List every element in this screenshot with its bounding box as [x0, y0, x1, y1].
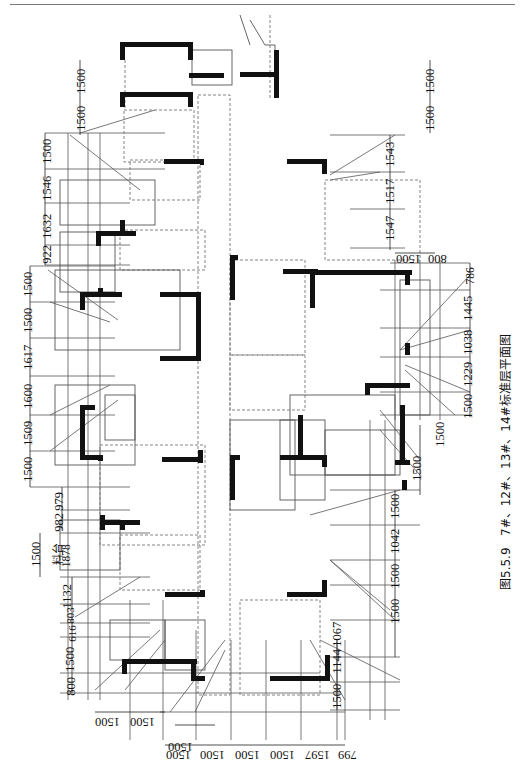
dim-bottom-1: 1500 [200, 748, 225, 761]
dim-left-16: 803 [65, 607, 76, 624]
dim-right-step-0: 800 [428, 252, 447, 265]
dim-left-3: 1546 [41, 176, 54, 201]
dim-bottom-5: 799 [338, 748, 357, 761]
dim-right-upper-0: 1543 [384, 142, 397, 167]
floor-plan-page: 1500 1500 1500 1546 1632 922 1500 1500 1… [0, 0, 520, 765]
dim-left-extra: 1500 [30, 542, 43, 567]
dim-right-bottom-2: 1500 [331, 684, 344, 709]
dashed-partitions [100, 15, 420, 695]
dim-left-12: 979 [53, 492, 66, 511]
dim-left-2: 1500 [41, 139, 54, 164]
dim-left-10: 1509 [22, 421, 35, 446]
dim-right-top-1: 1500 [424, 106, 437, 131]
dim-right-lower-a-0: 1500 [434, 422, 447, 447]
dim-left-9: 1600 [22, 384, 35, 409]
dim-left-4: 1632 [41, 214, 54, 239]
dim-left-7: 1500 [22, 308, 35, 333]
dimension-lines [30, 60, 470, 745]
dim-left-17: 616 [67, 625, 78, 642]
dim-bottom-2: 1500 [235, 748, 260, 761]
room-outlines [55, 15, 430, 670]
dim-left-1: 1500 [75, 106, 88, 131]
dim-right-mid-0: 786 [465, 267, 477, 284]
figure-title: 7#、12#、13#、14#标准层平面图 [499, 334, 513, 536]
dim-left-19: 800 [65, 677, 78, 696]
dim-right-upper-2: 1547 [384, 216, 397, 241]
dim-right-lower-b-2: 1500 [389, 564, 402, 589]
dim-right-lower-b-0: 1500 [389, 494, 402, 519]
dim-bottom-left-1: 1500 [130, 715, 155, 728]
figure-caption: 图5.5.9 7#、12#、13#、14#标准层平面图 [496, 334, 513, 590]
dim-left-15: 1132 [61, 584, 74, 609]
dim-right-step-1: 1500 [396, 252, 421, 265]
dim-right-upper-1: 1517 [384, 179, 397, 204]
dim-right-lower-b-1: 1042 [389, 529, 402, 554]
dim-right-top-0: 1500 [424, 69, 437, 94]
dim-left-6: 1500 [22, 272, 35, 297]
dim-bottom-4: 1597 [305, 748, 330, 761]
dim-right-mid-1: 1445 [462, 296, 475, 321]
dim-left-0: 1500 [75, 69, 88, 94]
dim-right-mid-2: 1038 [462, 330, 475, 355]
dim-left-5: 922 [41, 245, 54, 264]
dim-bottom-3: 1500 [270, 748, 295, 761]
dim-left-13: 982 [53, 513, 66, 532]
dim-right-lower-b-3: 1500 [389, 599, 402, 624]
dim-bottom-left-0: 1500 [95, 715, 120, 728]
dim-left-11: 1500 [22, 457, 35, 482]
dim-left-14: 1878 [61, 544, 73, 567]
figure-number: 图5.5.9 [499, 547, 513, 590]
dim-right-lower-a-1: 1500 [411, 456, 424, 481]
dim-left-8: 1617 [22, 345, 35, 370]
dim-right-bottom-1: 1144 [331, 649, 344, 674]
dim-left-18: 1500 [64, 647, 77, 672]
dim-right-bottom-0: 1067 [331, 622, 344, 647]
dim-bottom-0: 1500 [166, 748, 191, 761]
dim-right-mid-3: 1229 [462, 362, 475, 387]
dim-right-mid-4: 1500 [462, 394, 475, 419]
